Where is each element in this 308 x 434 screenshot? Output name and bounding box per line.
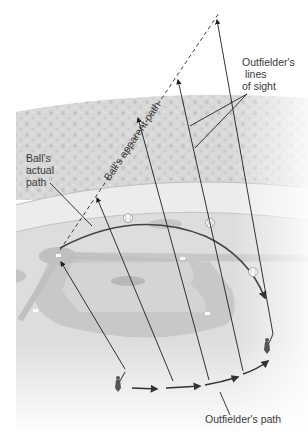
diagram: Outfielder's lines of sight Ball's actua… [0,0,308,434]
lines-of-sight-label: Outfielder's lines of sight [242,56,295,92]
baseball-icon [124,214,133,223]
actual-path-label: Ball's actual path [26,152,54,188]
baseball-icon [249,268,258,277]
outfielder-path-label: Outfielder's path [205,413,281,425]
